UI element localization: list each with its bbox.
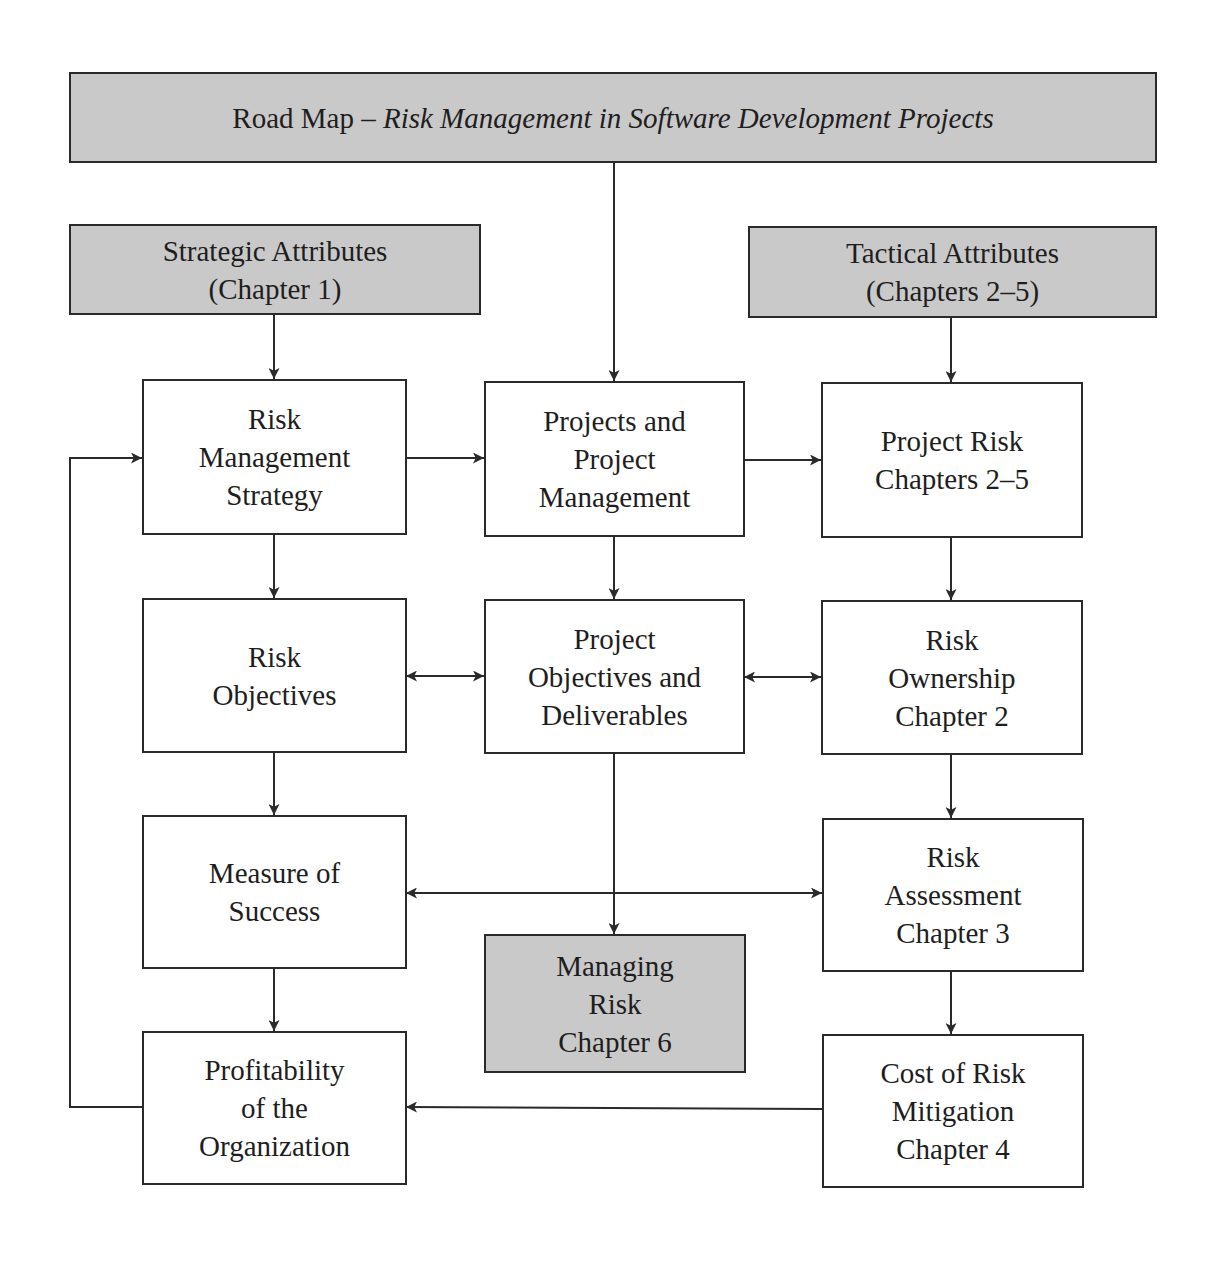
tactical-attributes-box: Tactical Attributes (Chapters 2–5) xyxy=(748,226,1157,318)
box-label-line: Objectives xyxy=(212,676,336,714)
risk-objectives-box: Risk Objectives xyxy=(142,598,407,753)
box-label-line: Chapter 6 xyxy=(558,1023,672,1061)
box-label-line: Managing xyxy=(556,947,674,985)
box-label-line: Measure of xyxy=(209,854,340,892)
risk-ownership-box: Risk Ownership Chapter 2 xyxy=(821,600,1083,755)
project-risk-box: Project Risk Chapters 2–5 xyxy=(821,382,1083,538)
projects-management-box: Projects and Project Management xyxy=(484,381,745,537)
box-label-line: Management xyxy=(539,478,690,516)
box-label-line: Risk xyxy=(248,638,301,676)
box-label-line: Risk xyxy=(588,985,641,1023)
strategic-attributes-box: Strategic Attributes (Chapter 1) xyxy=(69,224,481,315)
box-label-line: Organization xyxy=(199,1127,350,1165)
box-label-line: Assessment xyxy=(885,876,1022,914)
box-label-line: (Chapter 1) xyxy=(209,270,342,308)
box-label-line: Cost of Risk xyxy=(880,1054,1025,1092)
box-label-line: Chapter 3 xyxy=(896,914,1010,952)
box-label-line: Chapter 2 xyxy=(895,697,1009,735)
box-label-line: Strategy xyxy=(226,476,323,514)
risk-management-strategy-box: Risk Management Strategy xyxy=(142,379,407,535)
box-label-line: Deliverables xyxy=(541,696,688,734)
box-label-line: Tactical Attributes xyxy=(846,234,1059,272)
box-label-line: Project Risk xyxy=(881,422,1024,460)
profitability-box: Profitability of the Organization xyxy=(142,1031,407,1185)
box-label-line: Objectives and xyxy=(528,658,701,696)
risk-assessment-box: Risk Assessment Chapter 3 xyxy=(822,818,1084,972)
box-label-line: Risk xyxy=(248,400,301,438)
road-map-diagram: Road Map – Risk Management in Software D… xyxy=(0,0,1224,1266)
box-label-line: Mitigation xyxy=(892,1092,1014,1130)
box-label-line: Profitability xyxy=(204,1051,344,1089)
project-objectives-box: Project Objectives and Deliverables xyxy=(484,599,745,754)
box-label-line: Chapters 2–5 xyxy=(875,460,1029,498)
box-label-line: (Chapters 2–5) xyxy=(866,272,1039,310)
managing-risk-box: Managing Risk Chapter 6 xyxy=(484,934,746,1073)
title-subject: Risk Management in Software Development … xyxy=(383,99,994,137)
box-label-line: Risk xyxy=(925,621,978,659)
box-label-line: of the xyxy=(241,1089,308,1127)
road-map-title-box: Road Map – Risk Management in Software D… xyxy=(69,72,1157,163)
box-label-line: Risk xyxy=(926,838,979,876)
box-label-line: Ownership xyxy=(888,659,1015,697)
box-label-line: Management xyxy=(199,438,350,476)
box-label-line: Strategic Attributes xyxy=(163,232,388,270)
title-prefix: Road Map – xyxy=(232,99,383,137)
box-label-line: Project xyxy=(573,440,655,478)
measure-of-success-box: Measure of Success xyxy=(142,815,407,969)
box-label-line: Project xyxy=(573,620,655,658)
cost-of-risk-mitigation-box: Cost of Risk Mitigation Chapter 4 xyxy=(822,1034,1084,1188)
box-label-line: Projects and xyxy=(543,402,686,440)
box-label-line: Success xyxy=(229,892,321,930)
box-label-line: Chapter 4 xyxy=(896,1130,1010,1168)
